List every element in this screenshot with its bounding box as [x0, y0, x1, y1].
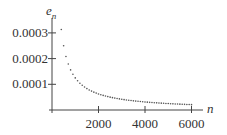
y-tick-label-0: 0.0001	[0, 77, 48, 90]
data-point	[121, 98, 123, 100]
data-point	[160, 102, 162, 104]
data-point	[179, 103, 181, 105]
x-axis-label: n	[207, 102, 214, 115]
data-point	[114, 97, 116, 99]
data-point	[144, 101, 146, 103]
data-point	[167, 103, 169, 105]
data-point	[163, 103, 165, 105]
data-point	[140, 101, 142, 103]
data-point	[158, 102, 160, 104]
y-tick-label-2: 0.0003	[0, 26, 48, 39]
data-point	[77, 80, 79, 82]
data-point	[70, 69, 72, 71]
data-point	[100, 94, 102, 96]
data-point	[116, 98, 118, 100]
axis-ticks	[48, 33, 192, 113]
data-point	[74, 77, 76, 79]
x-tick-label-0: 2000	[86, 117, 112, 130]
data-point	[165, 103, 167, 105]
data-point	[147, 101, 149, 103]
data-point	[88, 89, 90, 91]
data-point	[133, 100, 135, 102]
data-point	[109, 96, 111, 98]
data-point	[79, 82, 81, 84]
data-point	[186, 104, 188, 106]
y-axis-subscript: n	[52, 11, 57, 21]
chart-canvas	[0, 0, 227, 135]
data-point	[112, 97, 114, 99]
data-point	[107, 96, 109, 98]
y-tick-label-1: 0.0002	[0, 52, 48, 65]
data-point	[142, 101, 144, 103]
data-point	[181, 103, 183, 105]
data-point	[95, 92, 97, 94]
data-point	[72, 73, 74, 75]
data-point	[86, 88, 88, 90]
data-point	[154, 102, 156, 104]
data-point	[137, 101, 139, 103]
data-point	[174, 103, 176, 105]
data-point	[65, 56, 67, 58]
data-point	[188, 104, 190, 106]
x-tick-label-2: 6000	[179, 117, 205, 130]
data-point	[126, 99, 128, 101]
data-point	[170, 103, 172, 105]
data-point	[184, 104, 186, 106]
data-point	[172, 103, 174, 105]
data-point	[151, 102, 153, 104]
data-point	[177, 103, 179, 105]
data-point	[130, 100, 132, 102]
data-point	[123, 99, 125, 101]
data-point	[84, 86, 86, 88]
data-point	[191, 104, 193, 106]
data-point	[61, 29, 63, 31]
data-point	[119, 98, 121, 100]
data-point	[156, 102, 158, 104]
data-point	[135, 100, 137, 102]
y-axis-label: en	[46, 4, 56, 23]
data-point	[67, 63, 69, 65]
data-point	[149, 102, 151, 104]
data-point	[93, 91, 95, 93]
data-points	[61, 29, 193, 106]
data-point	[102, 95, 104, 97]
data-point	[98, 93, 100, 95]
data-point	[91, 90, 93, 92]
x-tick-label-1: 4000	[132, 117, 158, 130]
data-point	[128, 99, 130, 101]
data-point	[105, 95, 107, 97]
data-point	[81, 84, 83, 86]
data-point	[63, 45, 65, 47]
